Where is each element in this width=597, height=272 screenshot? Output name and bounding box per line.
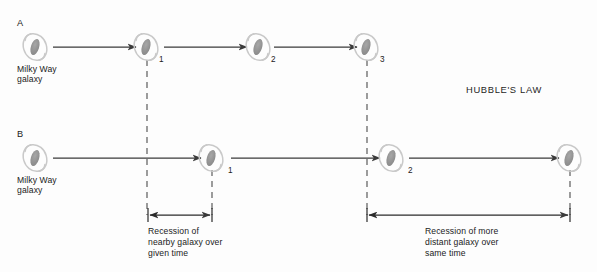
diagram-vector-layer <box>0 0 597 272</box>
row-a-galaxy-number-3: 3 <box>380 55 385 66</box>
galaxy-icon <box>199 145 223 171</box>
page-title: HUBBLE'S LAW <box>466 85 542 96</box>
nearby-caption-line3: given time <box>148 248 188 259</box>
nearby-caption-line2: nearby galaxy over <box>148 237 222 248</box>
galaxy-icon <box>379 145 403 171</box>
row-a-galaxy-number-2: 2 <box>271 55 276 66</box>
row-b-galaxy-number-1: 1 <box>228 166 233 177</box>
row-a-galaxy-number-1: 1 <box>159 55 164 66</box>
distant-caption-line1: Recession of more <box>425 226 498 237</box>
galaxy-icon <box>134 34 158 60</box>
galaxy-icon <box>246 34 270 60</box>
measurement-distant <box>367 208 570 222</box>
distant-caption-line3: same time <box>425 248 466 259</box>
galaxy-icon <box>23 34 47 60</box>
row-b-galaxy-number-2: 2 <box>408 166 413 177</box>
galaxy-icon <box>557 145 581 171</box>
galaxy-icon <box>354 34 378 60</box>
row-b-origin-label-line1: Milky Way <box>17 175 57 186</box>
distant-caption-line2: distant galaxy over <box>425 237 499 248</box>
row-a-origin-label-line1: Milky Way <box>17 64 57 75</box>
measurement-nearby <box>148 208 212 222</box>
nearby-caption-line1: Recession of <box>148 226 199 237</box>
galaxy-icon <box>23 145 47 171</box>
row-a-origin-label-line2: galaxy <box>17 74 42 85</box>
row-a-letter: A <box>17 18 23 29</box>
hubbles-law-diagram: A Milky Way galaxy 1 2 3 B Milky Way gal… <box>0 0 597 272</box>
row-b-letter: B <box>17 129 23 140</box>
row-b-origin-label-line2: galaxy <box>17 185 42 196</box>
